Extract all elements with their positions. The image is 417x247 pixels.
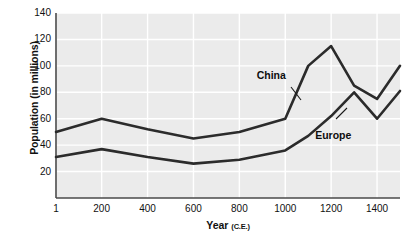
y-tick-20: 20 (25, 166, 51, 177)
series-label-china: China (257, 69, 286, 81)
x-tick-1400: 1400 (357, 203, 397, 214)
y-tick-140: 140 (25, 7, 51, 18)
x-axis-title-era: (C.E.) (231, 222, 249, 231)
population-chart-figure: Population (in millions) Year (C.E.) 204… (0, 0, 417, 247)
series-label-europe: Europe (315, 129, 351, 141)
x-tick-800: 800 (219, 203, 259, 214)
x-axis-title-main: Year (206, 219, 228, 231)
y-tick-100: 100 (25, 60, 51, 71)
y-tick-80: 80 (25, 86, 51, 97)
plot-background (56, 13, 400, 198)
y-tick-60: 60 (25, 113, 51, 124)
x-tick-1000: 1000 (265, 203, 305, 214)
x-axis-title: Year (C.E.) (56, 219, 400, 231)
caption-remnant (0, 238, 417, 247)
x-tick-1200: 1200 (311, 203, 351, 214)
x-tick-1: 1 (36, 203, 76, 214)
x-tick-200: 200 (82, 203, 122, 214)
y-tick-120: 120 (25, 33, 51, 44)
x-tick-400: 400 (128, 203, 168, 214)
y-tick-40: 40 (25, 139, 51, 150)
x-tick-600: 600 (173, 203, 213, 214)
